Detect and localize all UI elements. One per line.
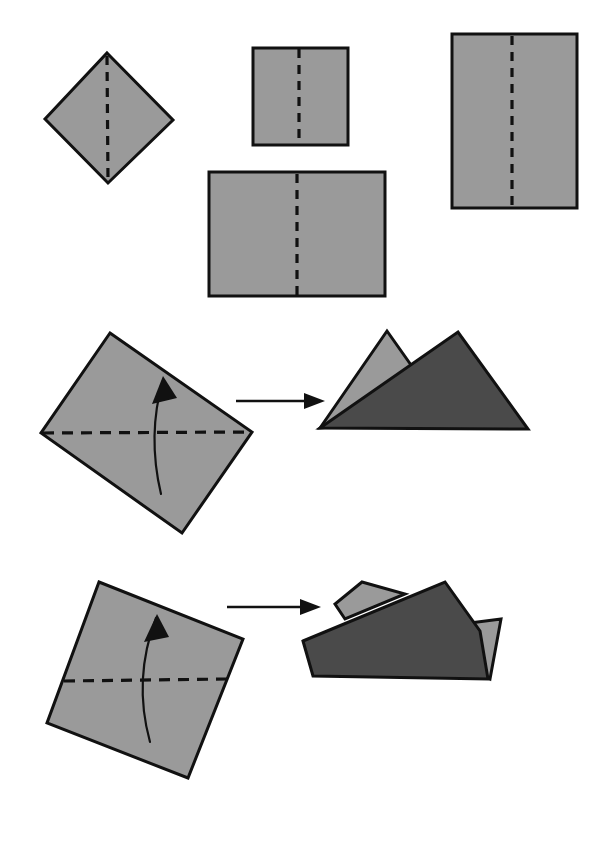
square-before-fold-crease-line — [64, 679, 228, 681]
origami-diagram — [0, 0, 604, 851]
diagram-canvas — [0, 0, 604, 851]
tall-rectangle-sheet — [452, 34, 577, 208]
